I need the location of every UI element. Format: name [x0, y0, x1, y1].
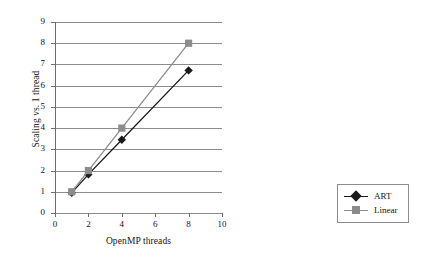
y-tick-4: [51, 128, 55, 129]
y-tick-label-3: 3: [29, 143, 45, 153]
y-tick-label-7: 7: [29, 58, 45, 68]
gridline-y-6: [55, 86, 222, 87]
x-tick-label-4: 4: [112, 219, 132, 229]
y-tick-label-2: 2: [29, 165, 45, 175]
gridline-y-7: [55, 64, 222, 65]
square-marker-icon: [343, 204, 369, 216]
x-tick-label-2: 2: [78, 219, 98, 229]
gridline-y-9: [55, 22, 222, 23]
x-tick-0: [55, 213, 56, 217]
y-tick-label-8: 8: [29, 37, 45, 47]
y-tick-1: [51, 192, 55, 193]
legend-label-linear: Linear: [369, 205, 397, 215]
y-tick-label-4: 4: [29, 122, 45, 132]
y-tick-7: [51, 64, 55, 65]
y-tick-8: [51, 43, 55, 44]
y-tick-label-6: 6: [29, 80, 45, 90]
y-tick-label-5: 5: [29, 101, 45, 111]
x-tick-2: [88, 213, 89, 217]
y-tick-label-1: 1: [29, 186, 45, 196]
gridline-y-5: [55, 107, 222, 108]
y-tick-3: [51, 149, 55, 150]
scaling-chart-figure: Scaling vs. 1 thread 0123456789 0246810 …: [0, 0, 424, 262]
x-tick-label-8: 8: [179, 219, 199, 229]
x-tick-8: [189, 213, 190, 217]
legend-item-art[interactable]: ART: [343, 189, 403, 203]
y-axis-line: [55, 22, 56, 213]
gridline-y-0: [55, 213, 222, 214]
x-tick-label-0: 0: [45, 219, 65, 229]
y-tick-5: [51, 107, 55, 108]
plot-area: [55, 22, 222, 213]
x-tick-6: [155, 213, 156, 217]
legend-label-art: ART: [369, 191, 391, 201]
gridline-y-8: [55, 43, 222, 44]
x-axis-title: OpenMP threads: [55, 236, 222, 246]
gridline-y-2: [55, 171, 222, 172]
diamond-marker-icon: [343, 190, 369, 202]
y-tick-label-9: 9: [29, 16, 45, 26]
x-tick-10: [222, 213, 223, 217]
gridline-y-3: [55, 149, 222, 150]
gridline-y-4: [55, 128, 222, 129]
legend-item-linear[interactable]: Linear: [343, 203, 403, 217]
y-tick-2: [51, 171, 55, 172]
x-tick-label-6: 6: [145, 219, 165, 229]
y-tick-6: [51, 86, 55, 87]
legend: ART Linear: [337, 184, 409, 223]
gridline-y-1: [55, 192, 222, 193]
x-tick-label-10: 10: [212, 219, 232, 229]
x-tick-4: [122, 213, 123, 217]
y-tick-9: [51, 22, 55, 23]
y-tick-label-0: 0: [29, 207, 45, 217]
